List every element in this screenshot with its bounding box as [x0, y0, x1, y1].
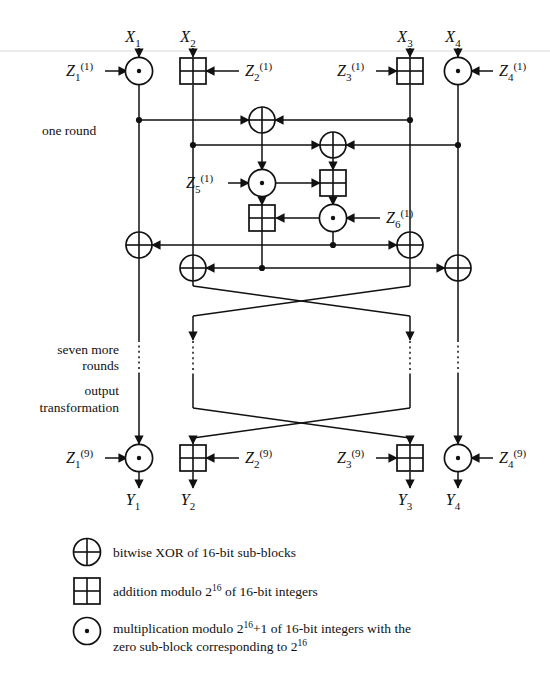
- op-add-ma-upper: [320, 170, 346, 196]
- legend-addition-part1: addition modulo 2: [113, 584, 212, 599]
- legend-mul-exponent1: 16: [244, 620, 254, 630]
- svg-text:Z4(9): Z4(9): [499, 447, 527, 470]
- side-label-output-transformation-line2: transformation: [40, 400, 120, 415]
- svg-text:X2: X2: [179, 28, 195, 49]
- mangler-input-wires: [136, 117, 461, 148]
- op-xor-a: [249, 107, 275, 133]
- side-label-seven-more-rounds-line2: rounds: [82, 358, 119, 373]
- op-add-z3-output: [397, 445, 423, 471]
- op-add-z2-round1: [180, 58, 206, 84]
- op-mul-z4-round1: [444, 57, 471, 84]
- output-wires: [139, 472, 458, 488]
- op-add-z3-round1: [397, 58, 423, 84]
- svg-text:Z4(1): Z4(1): [499, 60, 527, 83]
- subkey-z3r1-sup: (1): [351, 60, 364, 73]
- output-transform-input-wires: [139, 437, 458, 444]
- op-xor-round-out-4: [445, 255, 471, 281]
- subkey-z1out-sup: (9): [80, 447, 93, 460]
- svg-text:Z2(1): Z2(1): [245, 60, 273, 83]
- op-xor-round-out-2: [180, 255, 206, 281]
- svg-text:Y2: Y2: [181, 491, 195, 512]
- svg-text:Z1(1): Z1(1): [66, 60, 94, 83]
- subkey-z1r1-sup: (1): [80, 60, 93, 73]
- input-wires: [139, 48, 458, 57]
- subkey-z4r1-sub: 4: [508, 71, 514, 83]
- side-labels: one round seven more rounds output trans…: [40, 123, 120, 415]
- legend-circle-plus-icon: [74, 539, 101, 566]
- legend-mul-exponent2: 16: [297, 638, 307, 648]
- subkey-z3r1-sub: 3: [346, 71, 352, 83]
- legend-addition-exponent: 16: [212, 583, 222, 593]
- subkey-z5r1-sub: 5: [195, 183, 201, 195]
- subkey-z4r1-sup: (1): [513, 60, 526, 73]
- svg-text:X3: X3: [396, 28, 413, 49]
- subkey-z1out-sub: 1: [75, 458, 81, 470]
- legend-square-plus-icon: [74, 578, 100, 604]
- seven-more-rounds-dotted-wires: [139, 340, 458, 374]
- subkey-z1r1-sub: 1: [75, 71, 81, 83]
- input-label-x1-sub: 1: [135, 37, 141, 49]
- svg-text:X1: X1: [124, 28, 140, 49]
- legend: bitwise XOR of 16-bit sub-blocks additio…: [74, 539, 411, 655]
- op-mul-z5: [248, 169, 275, 196]
- output-label-y4-sub: 4: [455, 500, 461, 512]
- input-label-x4-sub: 4: [455, 37, 461, 49]
- output-label-y3-sub: 3: [407, 500, 413, 512]
- subkey-z2out-sub: 2: [254, 458, 260, 470]
- side-label-output-transformation-line1: output: [84, 383, 119, 398]
- subkey-z3out-sub: 3: [346, 458, 352, 470]
- output-label-y1-sub: 1: [135, 500, 141, 512]
- legend-addition-part2: of 16-bit integers: [222, 584, 318, 599]
- svg-text:Y4: Y4: [446, 491, 461, 512]
- subkey-z5r1-sup: (1): [200, 172, 213, 185]
- subkey-z2out-sup: (9): [259, 447, 272, 460]
- subkey-z3out-sup: (9): [351, 447, 364, 460]
- op-xor-round-out-1: [126, 232, 152, 258]
- round1-trunk-wires: [139, 85, 458, 255]
- op-mul-z1-output: [125, 444, 152, 471]
- svg-text:Y3: Y3: [398, 491, 413, 512]
- op-xor-round-out-3: [397, 232, 423, 258]
- svg-text:Z3(1): Z3(1): [337, 60, 365, 83]
- legend-mul-part3: zero sub-block corresponding to 2: [113, 639, 297, 654]
- subkey-z6r1-sub: 6: [395, 218, 401, 230]
- svg-text:X4: X4: [444, 28, 461, 49]
- output-label-y2-sub: 2: [190, 500, 196, 512]
- side-label-one-round: one round: [42, 123, 97, 138]
- crossover-2-wires: [139, 374, 458, 438]
- svg-text:Y1: Y1: [126, 491, 140, 512]
- svg-text:Z5(1): Z5(1): [186, 172, 214, 195]
- op-xor-b: [320, 132, 346, 158]
- svg-text:Z1(9): Z1(9): [66, 447, 94, 470]
- op-mul-z1-round1: [125, 57, 152, 84]
- input-labels: X1 X2 X3 X4: [124, 28, 461, 49]
- subkey-z2r1-sub: 2: [254, 71, 260, 83]
- legend-text-multiplication-line1: multiplication modulo 216+1 of 16-bit in…: [113, 620, 411, 636]
- idea-cipher-diagram: X1 X2 X3 X4 Z1(1) Z2(1) Z3(1) Z4(1) Z5(1…: [0, 0, 550, 686]
- subkey-z4out-sup: (9): [513, 447, 526, 460]
- subkey-z2r1-sup: (1): [259, 60, 272, 73]
- legend-circle-dot-icon: [74, 618, 101, 645]
- side-label-seven-more-rounds-line1: seven more: [57, 342, 119, 357]
- op-mul-z4-output: [444, 444, 471, 471]
- op-add-ma-lower: [249, 205, 275, 231]
- svg-text:Z2(9): Z2(9): [245, 447, 273, 470]
- svg-text:Z3(9): Z3(9): [337, 447, 365, 470]
- legend-text-xor: bitwise XOR of 16-bit sub-blocks: [113, 545, 296, 560]
- input-label-x3-sub: 3: [407, 37, 413, 49]
- legend-text-addition: addition modulo 216 of 16-bit integers: [113, 583, 318, 599]
- input-label-x2-sub: 2: [190, 37, 196, 49]
- subkey-z4out-sub: 4: [508, 458, 514, 470]
- op-add-z2-output: [180, 445, 206, 471]
- legend-mul-part1: multiplication modulo 2: [113, 621, 244, 636]
- op-mul-z6: [319, 204, 346, 231]
- subkey-z6r1-sup: (1): [400, 207, 413, 220]
- output-labels: Y1 Y2 Y3 Y4: [126, 491, 461, 512]
- legend-text-multiplication-line2: zero sub-block corresponding to 216: [113, 638, 307, 654]
- legend-mul-part2: +1 of 16-bit integers with the: [253, 621, 411, 636]
